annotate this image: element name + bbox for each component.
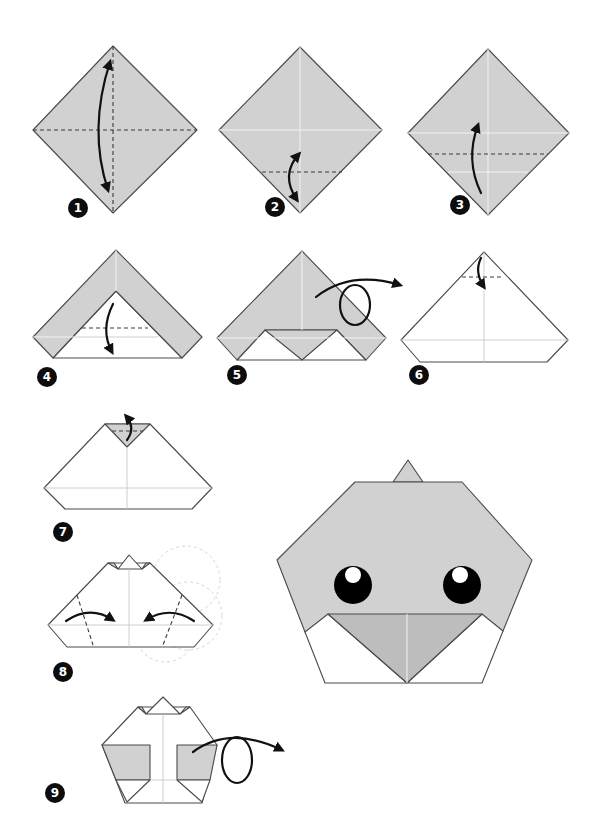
- step-2: 2: [219, 47, 382, 217]
- svg-text:7: 7: [59, 525, 67, 539]
- svg-text:1: 1: [74, 201, 82, 215]
- folded-white-shape: [401, 252, 568, 362]
- finished-chick-face: [277, 460, 532, 683]
- step-5: 5: [217, 251, 400, 385]
- eye-highlight: [345, 567, 361, 583]
- step-8: 8: [48, 546, 222, 682]
- svg-text:5: 5: [233, 368, 241, 382]
- step-badge-7: 7: [53, 522, 73, 542]
- crest-triangle: [393, 460, 423, 482]
- eye-highlight: [452, 567, 468, 583]
- step-6: 6: [401, 252, 568, 385]
- svg-text:2: 2: [271, 200, 279, 214]
- left-eye: [334, 566, 372, 604]
- step-badge-8: 8: [53, 662, 73, 682]
- crest-peak: [146, 697, 180, 714]
- head-shape: [277, 482, 532, 632]
- step-4: 4: [33, 250, 202, 387]
- step-badge-6: 6: [409, 365, 429, 385]
- svg-text:8: 8: [59, 665, 67, 679]
- step-badge-3: 3: [450, 195, 470, 215]
- step-badge-9: 9: [45, 783, 65, 803]
- step-badge-1: 1: [68, 198, 88, 218]
- svg-text:9: 9: [51, 786, 59, 800]
- step-badge-5: 5: [227, 365, 247, 385]
- crest-peak: [118, 555, 142, 569]
- step-badge-2: 2: [265, 197, 285, 217]
- left-grey-panel: [102, 745, 150, 780]
- svg-text:6: 6: [415, 368, 423, 382]
- folded-white-shape: [48, 563, 213, 647]
- right-eye: [443, 566, 481, 604]
- turn-over-loop-icon: [222, 737, 252, 783]
- svg-text:3: 3: [456, 198, 464, 212]
- step-1: 1: [33, 46, 197, 218]
- svg-text:4: 4: [43, 370, 51, 384]
- step-badge-4: 4: [37, 367, 57, 387]
- step-3: 3: [408, 49, 569, 215]
- diagram-canvas: 1 2 3 4: [0, 0, 598, 840]
- step-7: 7: [44, 416, 212, 542]
- step-9: 9: [45, 697, 282, 803]
